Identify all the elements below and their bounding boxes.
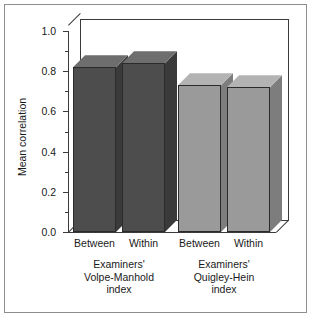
y-tick-minor — [65, 91, 68, 92]
bar-chart-plot: Mean correlation 0.00.20.40.60.81.0 Betw… — [0, 0, 311, 317]
y-tick-label: 0.4 — [30, 147, 56, 157]
y-tick-label: 0.0 — [30, 227, 56, 237]
bar-front-face — [227, 87, 270, 232]
group-label: Examiners'Volpe-Manholdindex — [59, 258, 179, 296]
axis-right-back-line — [288, 19, 289, 221]
bar-side-face — [165, 51, 177, 232]
bar-side-face — [270, 75, 282, 232]
group-label-line: index — [164, 283, 284, 296]
y-tick-label: 0.8 — [30, 66, 56, 76]
bar-front-face — [178, 85, 221, 232]
y-tick-minor — [65, 212, 68, 213]
y-tick-label: 0.6 — [30, 106, 56, 116]
category-label: Within — [215, 237, 282, 249]
y-tick-major — [63, 192, 68, 193]
group-label-line: index — [59, 283, 179, 296]
y-tick-minor — [65, 132, 68, 133]
axis-depth-top-connector — [68, 13, 81, 26]
group-label-line: Quigley-Hein — [164, 271, 284, 284]
figure-container: Mean correlation 0.00.20.40.60.81.0 Betw… — [0, 0, 311, 317]
y-tick-minor — [65, 51, 68, 52]
bar-front-face — [122, 63, 165, 232]
bar — [178, 73, 221, 232]
y-axis-front-line — [68, 31, 69, 233]
y-tick-minor — [65, 172, 68, 173]
bar — [73, 55, 116, 232]
bar — [227, 75, 270, 232]
y-tick-major — [63, 152, 68, 153]
axis-baseline-front-line — [68, 232, 276, 233]
y-tick-major — [63, 232, 68, 233]
axis-top-back-line — [80, 19, 288, 20]
y-tick-label: 0.2 — [30, 187, 56, 197]
group-label: Examiners'Quigley-Heinindex — [164, 258, 284, 296]
group-label-line: Volpe-Manhold — [59, 271, 179, 284]
y-tick-major — [63, 71, 68, 72]
y-tick-major — [63, 111, 68, 112]
group-label-line: Examiners' — [164, 258, 284, 271]
y-axis-title: Mean correlation — [16, 67, 28, 207]
bar-front-face — [73, 67, 116, 232]
y-tick-label: 1.0 — [30, 26, 56, 36]
y-tick-major — [63, 31, 68, 32]
bar — [122, 51, 165, 232]
group-label-line: Examiners' — [59, 258, 179, 271]
